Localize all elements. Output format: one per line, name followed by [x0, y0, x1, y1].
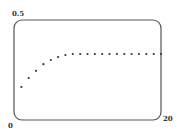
data-point — [50, 59, 52, 61]
data-point — [153, 53, 155, 55]
data-point — [64, 54, 66, 56]
data-point — [42, 63, 44, 65]
data-point — [101, 53, 103, 55]
y-tick-max: 0.5 — [12, 9, 24, 18]
data-point — [145, 53, 147, 55]
data-point — [160, 53, 162, 55]
data-point — [35, 70, 37, 72]
data-points — [20, 53, 162, 88]
data-point — [28, 77, 30, 79]
data-point — [138, 53, 140, 55]
data-point — [72, 53, 74, 55]
x-tick-min: 0 — [8, 121, 13, 130]
data-point — [131, 53, 133, 55]
data-point — [57, 56, 59, 58]
chart-plot-area — [0, 0, 179, 138]
x-tick-max: 20 — [163, 114, 173, 123]
data-point — [116, 53, 118, 55]
data-point — [20, 86, 22, 88]
data-point — [108, 53, 110, 55]
data-point — [94, 53, 96, 55]
data-point — [86, 53, 88, 55]
data-point — [79, 53, 81, 55]
data-point — [123, 53, 125, 55]
